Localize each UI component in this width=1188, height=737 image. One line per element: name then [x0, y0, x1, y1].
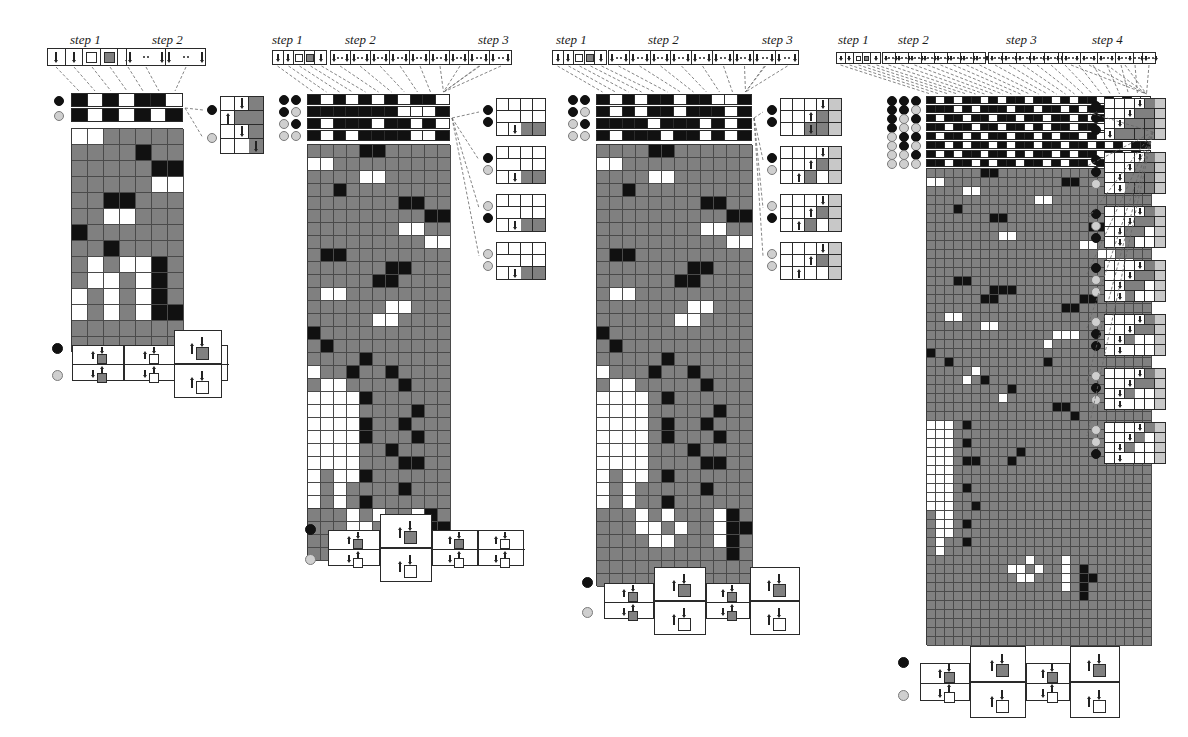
grid-cell — [927, 313, 936, 322]
grid-cell — [990, 232, 999, 241]
grid-cell — [1053, 322, 1062, 331]
grid-cell — [981, 205, 990, 214]
state-marker-black — [1091, 167, 1101, 177]
legend-rule-box[interactable] — [1070, 682, 1120, 718]
arrow-down-icon — [897, 56, 901, 61]
grid-cell — [1062, 493, 1071, 502]
strip-cell[interactable] — [922, 53, 935, 63]
strip-cell[interactable] — [871, 53, 880, 63]
arrow-down-icon — [938, 689, 942, 698]
bit-cell — [981, 133, 990, 139]
bit-cell — [998, 151, 1007, 157]
strip-cell[interactable] — [863, 53, 872, 63]
strip-cell[interactable] — [961, 53, 974, 63]
grid-cell — [1098, 466, 1107, 475]
legend-rule-box[interactable] — [920, 663, 970, 701]
grid-cell — [1044, 466, 1053, 475]
state-cell — [1125, 345, 1135, 355]
bit-cell — [1079, 124, 1088, 130]
grid-cell — [981, 511, 990, 520]
grid-cell — [1071, 241, 1080, 250]
grid-cell — [1008, 448, 1017, 457]
bit-cell — [1043, 160, 1052, 166]
grid-cell — [1107, 304, 1116, 313]
grid-cell — [1107, 583, 1116, 592]
grid-cell — [963, 439, 972, 448]
grid-cell — [1026, 232, 1035, 241]
strip-cell[interactable] — [1098, 53, 1116, 63]
grid-cell — [1053, 637, 1062, 646]
grid-cell — [963, 502, 972, 511]
arrow-down-icon — [1128, 56, 1132, 61]
grid-cell — [936, 493, 945, 502]
strip-cell[interactable] — [989, 53, 1003, 63]
strip-cell[interactable] — [1003, 53, 1017, 63]
grid-cell — [999, 322, 1008, 331]
bit-cell — [981, 124, 990, 130]
grid-cell — [990, 403, 999, 412]
strip-cell[interactable] — [1116, 53, 1133, 63]
strip-cell[interactable] — [935, 53, 948, 63]
strip-cell[interactable] — [854, 53, 863, 63]
legend-rule-box[interactable] — [970, 646, 1026, 682]
grid-cell — [954, 277, 963, 286]
grid-cell — [1143, 556, 1152, 565]
grid-cell — [954, 358, 963, 367]
strip-cell[interactable] — [1063, 53, 1081, 63]
grid-cell — [972, 268, 981, 277]
grid-cell — [1125, 619, 1134, 628]
grid-cell — [990, 493, 999, 502]
strip-cell[interactable] — [1081, 53, 1099, 63]
strip-cell[interactable] — [837, 53, 846, 63]
grid-cell — [1026, 241, 1035, 250]
strip-cell[interactable] — [883, 53, 896, 63]
grid-cell — [1080, 448, 1089, 457]
grid-cell — [1143, 592, 1152, 601]
grid-cell — [999, 592, 1008, 601]
strip-cell[interactable] — [846, 53, 855, 63]
grid-cell — [963, 268, 972, 277]
strip-cell[interactable] — [1045, 53, 1059, 63]
grid-cell — [990, 430, 999, 439]
strip-cell[interactable] — [1017, 53, 1031, 63]
grid-cell — [1071, 556, 1080, 565]
state-marker-open — [1091, 275, 1101, 285]
state-cell — [1155, 379, 1165, 389]
grid-cell — [936, 520, 945, 529]
bit-cell — [1061, 106, 1070, 112]
strip-cell[interactable] — [909, 53, 922, 63]
dot-icon — [1068, 57, 1070, 59]
row-marker-group — [887, 96, 923, 105]
legend-rule-box[interactable] — [1070, 646, 1120, 682]
legend-rule-box[interactable] — [1026, 663, 1070, 701]
strip-cell[interactable] — [1143, 53, 1157, 63]
grid-cell — [1035, 529, 1044, 538]
grid-cell — [954, 169, 963, 178]
grid-cell — [999, 520, 1008, 529]
grid-cell — [1071, 583, 1080, 592]
strip-cell[interactable] — [948, 53, 961, 63]
legend-rule-box[interactable] — [970, 682, 1026, 718]
strip-cell[interactable] — [896, 53, 909, 63]
grid-cell — [1116, 574, 1125, 583]
grid-cell — [999, 241, 1008, 250]
grid-cell — [1008, 421, 1017, 430]
grid-cell — [963, 367, 972, 376]
grid-cell — [945, 637, 954, 646]
grid-cell — [1008, 529, 1017, 538]
arrow-down-icon — [1118, 282, 1122, 289]
grid-cell — [1071, 412, 1080, 421]
grid-cell — [927, 223, 936, 232]
grid-cell — [972, 340, 981, 349]
bit-cell — [1025, 97, 1034, 103]
bit-cell — [936, 142, 945, 148]
grid-cell — [927, 286, 936, 295]
state-cell — [1155, 399, 1165, 409]
state-cell — [1105, 315, 1115, 325]
strip-cell[interactable] — [1031, 53, 1045, 63]
grid-cell — [936, 331, 945, 340]
grid-cell — [972, 169, 981, 178]
grid-cell — [945, 331, 954, 340]
strip-cell[interactable] — [974, 53, 987, 63]
grid-cell — [1053, 565, 1062, 574]
